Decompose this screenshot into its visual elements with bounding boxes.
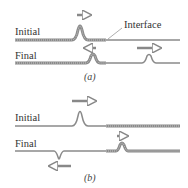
panel-a-final-string xyxy=(15,54,180,63)
panel-b-initial-label: Initial xyxy=(15,112,40,123)
panel-a-caption: (a) xyxy=(84,71,96,82)
panel-b-final-label: Final xyxy=(15,138,37,149)
interface-label: Interface xyxy=(124,19,161,30)
interface-leader-line xyxy=(108,28,122,39)
panel-b-caption: (b) xyxy=(84,172,96,183)
panel-a-final-label: Final xyxy=(15,50,37,61)
panel-a-initial-label: Initial xyxy=(15,26,40,37)
panel-b-final-string xyxy=(15,143,180,159)
